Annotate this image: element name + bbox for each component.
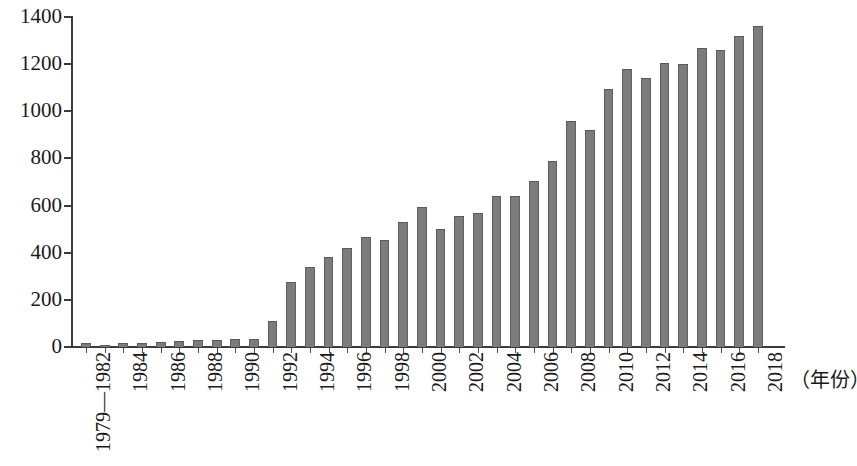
x-label-2004: 2004: [504, 352, 524, 392]
bar-1983: [100, 345, 110, 347]
bar-1994: [305, 267, 315, 347]
bar-2015: [697, 48, 707, 347]
bar-2003: [473, 213, 483, 347]
y-tick-label-200: 200: [6, 289, 62, 310]
x-label-2008: 2008: [578, 352, 598, 392]
bar-2018: [753, 26, 763, 347]
bar-2008: [566, 121, 576, 347]
x-tick-2010: [609, 348, 610, 353]
x-tick-1984: [123, 348, 124, 353]
bar-2014: [678, 64, 688, 347]
y-tick-label-800: 800: [6, 147, 62, 168]
bar-2006: [529, 181, 539, 347]
x-tick-2016: [721, 348, 722, 353]
x-tick-1996: [347, 348, 348, 353]
x-label-1998: 1998: [392, 352, 412, 392]
x-tick-1988: [198, 348, 199, 353]
bar-1985: [137, 343, 147, 347]
bar-1993: [286, 282, 296, 347]
bar-2001: [436, 229, 446, 347]
x-tick-2012: [646, 348, 647, 353]
x-label-2000: 2000: [429, 352, 449, 392]
x-label-1984: 1984: [130, 352, 150, 392]
bar-1979-1982: [81, 343, 91, 347]
bar-1984: [118, 343, 128, 347]
x-tick-2008: [571, 348, 572, 353]
bar-2011: [622, 69, 632, 347]
x-tick-1998: [385, 348, 386, 353]
x-tick-2014: [683, 348, 684, 353]
x-label-1979-1982: 1979—1982: [93, 352, 113, 452]
y-tick-label-600: 600: [6, 195, 62, 216]
bar-1998: [380, 240, 390, 347]
x-tick-1979-1982: [86, 348, 87, 353]
bar-2004: [492, 196, 502, 347]
bar-1988: [193, 340, 203, 347]
x-tick-2006: [534, 348, 535, 353]
x-tick-1994: [310, 348, 311, 353]
y-tick-label-0: 0: [6, 336, 62, 357]
bar-2000: [417, 207, 427, 347]
x-tick-1990: [235, 348, 236, 353]
bar-2009: [585, 130, 595, 347]
x-axis-caption: （年份）: [790, 370, 857, 390]
bar-2013: [660, 63, 670, 347]
bar-1987: [174, 341, 184, 347]
bar-1991: [249, 339, 259, 347]
x-tick-2002: [459, 348, 460, 353]
y-tick-label-1000: 1000: [6, 100, 62, 121]
x-label-1992: 1992: [280, 352, 300, 392]
y-tick-label-1200: 1200: [6, 53, 62, 74]
bar-1999: [398, 222, 408, 347]
x-label-2006: 2006: [541, 352, 561, 392]
x-tick-2004: [497, 348, 498, 353]
x-tick-2018: [758, 348, 759, 353]
x-tick-1992: [273, 348, 274, 353]
y-tick-label-1400: 1400: [6, 6, 62, 27]
bar-2012: [641, 78, 651, 347]
bar-1990: [230, 339, 240, 347]
bar-2017: [734, 36, 744, 347]
bar-1989: [212, 340, 222, 347]
x-tick-1986: [161, 348, 162, 353]
bar-1986: [156, 342, 166, 347]
x-label-2012: 2012: [653, 352, 673, 392]
x-tick-2000: [422, 348, 423, 353]
x-label-1994: 1994: [317, 352, 337, 392]
bar-1996: [342, 248, 352, 347]
bar-2002: [454, 216, 464, 347]
bar-2005: [510, 196, 520, 347]
x-label-2018: 2018: [765, 352, 785, 392]
bar-2007: [548, 161, 558, 347]
x-label-1996: 1996: [354, 352, 374, 392]
x-label-2002: 2002: [466, 352, 486, 392]
bar-2010: [604, 89, 614, 347]
bar-1997: [361, 237, 371, 347]
x-label-1986: 1986: [168, 352, 188, 392]
x-label-2010: 2010: [616, 352, 636, 392]
bar-chart: 1400120010008006004002000 1979—198219841…: [0, 0, 857, 466]
x-label-2016: 2016: [728, 352, 748, 392]
plot-area: [72, 17, 785, 347]
x-label-1988: 1988: [205, 352, 225, 392]
bar-2016: [716, 50, 726, 347]
bar-1992: [268, 321, 278, 347]
y-tick-label-400: 400: [6, 242, 62, 263]
bar-1995: [324, 257, 334, 347]
x-label-1990: 1990: [242, 352, 262, 392]
x-label-2014: 2014: [690, 352, 710, 392]
